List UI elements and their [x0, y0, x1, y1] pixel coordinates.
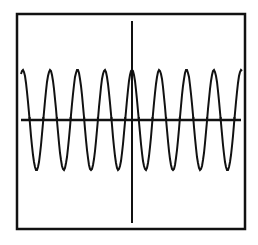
graph-window — [0, 0, 258, 245]
